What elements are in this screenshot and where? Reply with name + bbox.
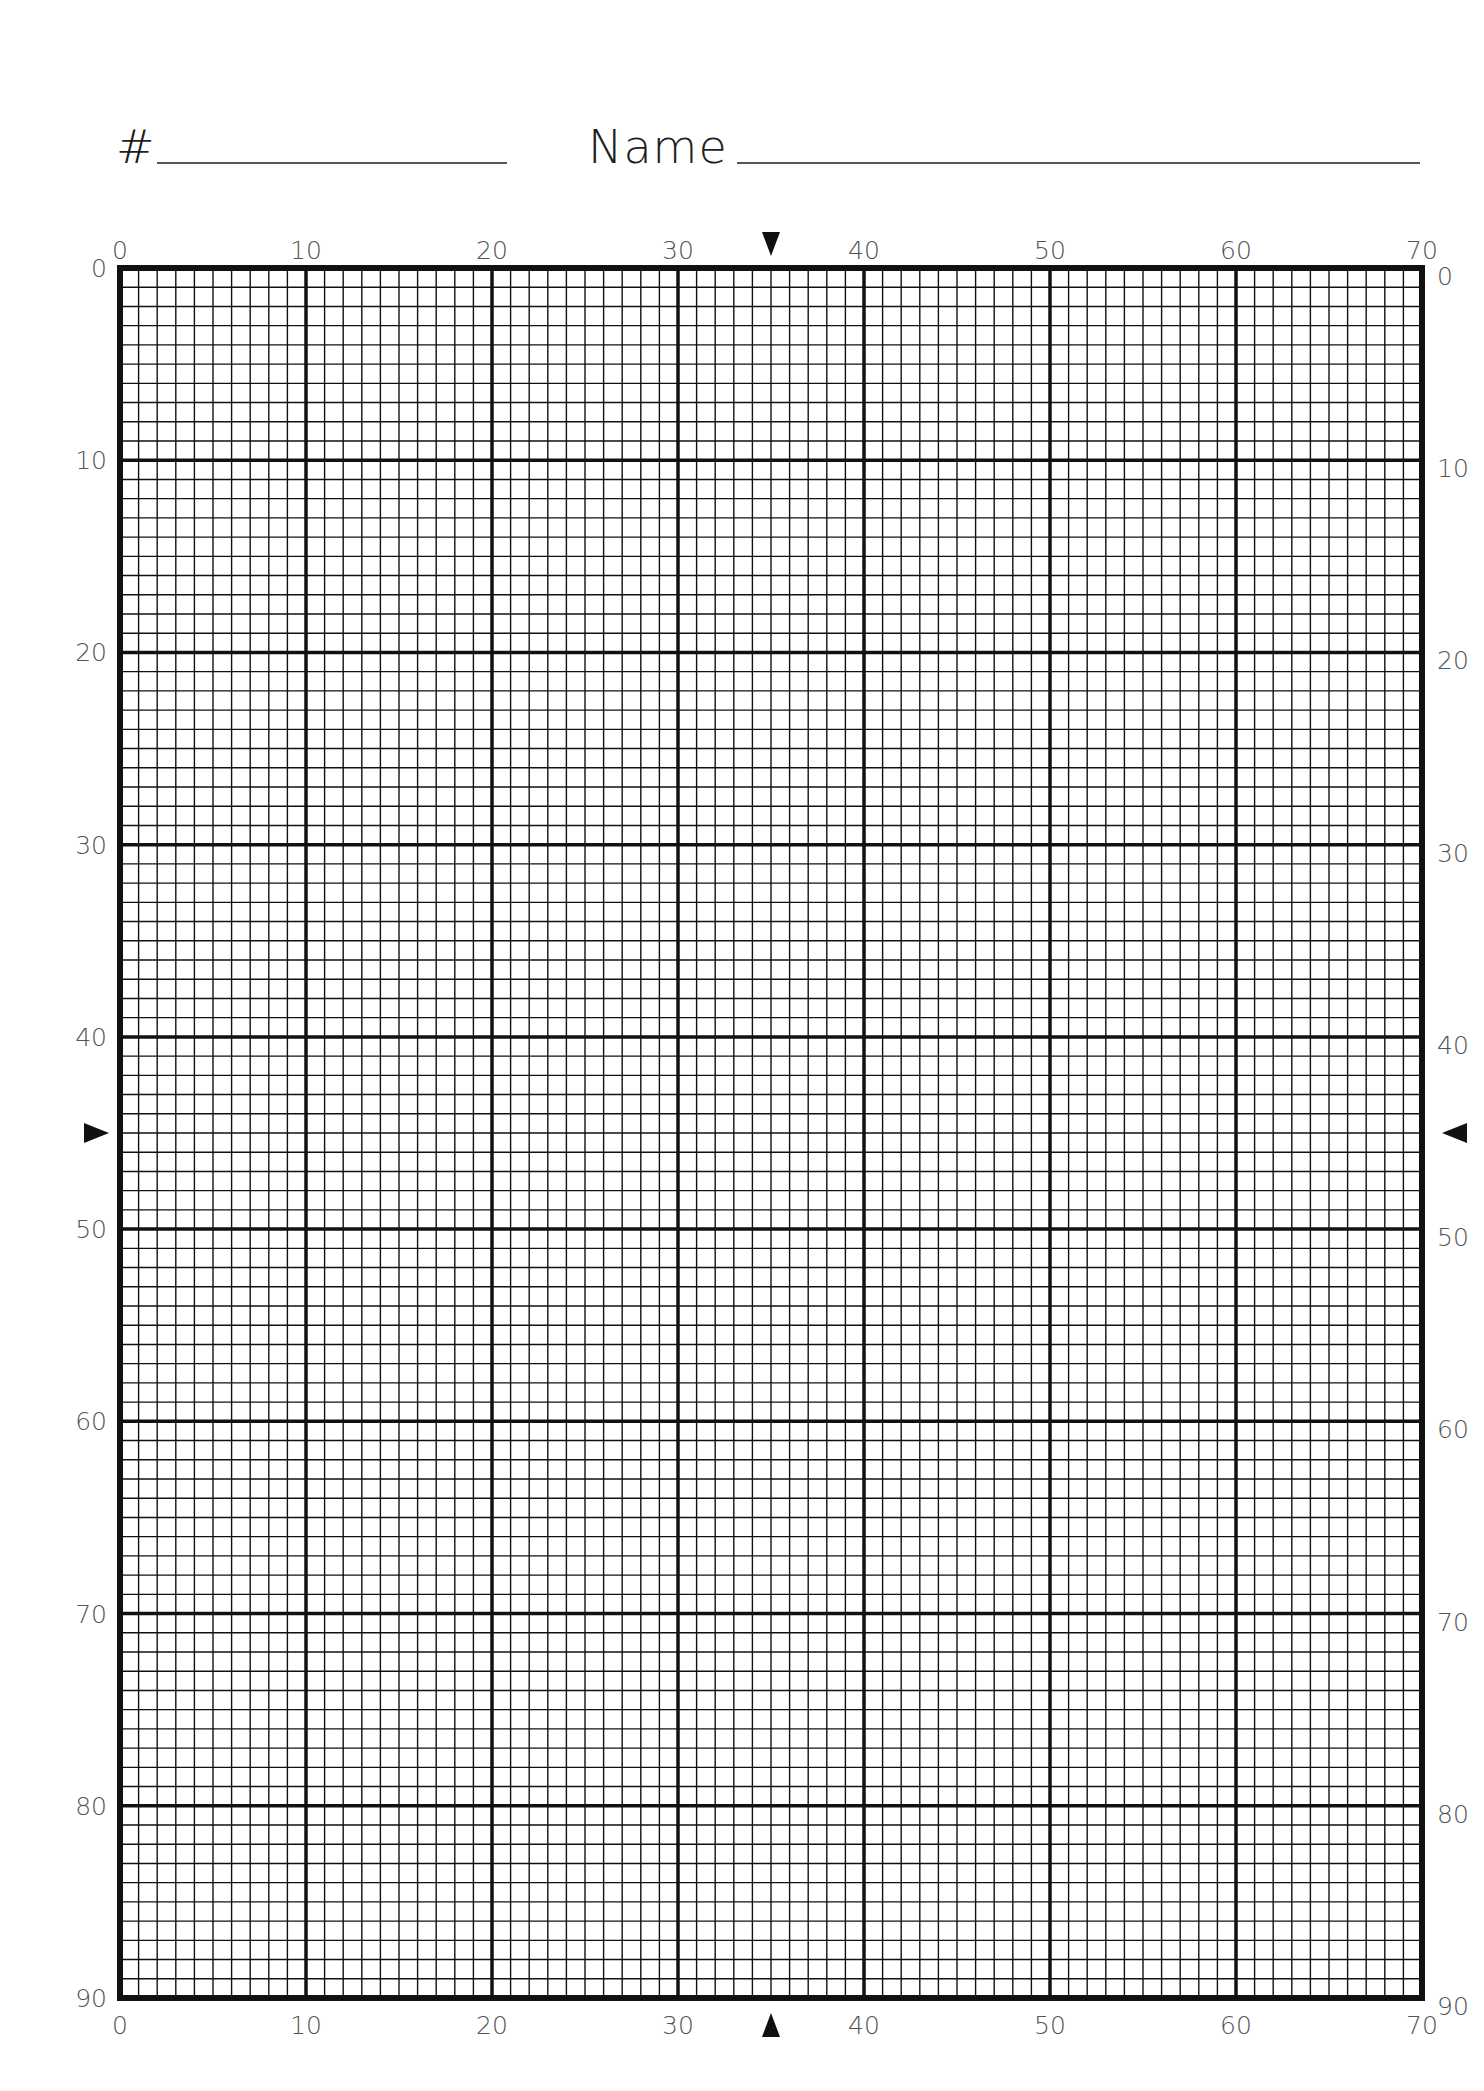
left-axis-label: 20	[75, 640, 107, 665]
bottom-axis-label: 60	[1220, 2013, 1252, 2038]
left-axis-label: 60	[75, 1409, 107, 1434]
left-axis-label: 50	[75, 1217, 107, 1242]
triangle-right-icon	[84, 1123, 109, 1143]
right-axis-label: 50	[1437, 1225, 1469, 1250]
left-axis-label: 40	[75, 1024, 107, 1049]
top-axis-label: 40	[848, 238, 880, 263]
right-axis-label: 40	[1437, 1032, 1469, 1057]
triangle-down-icon	[762, 232, 780, 256]
top-axis-label: 10	[290, 238, 322, 263]
triangle-left-icon	[1442, 1123, 1467, 1143]
right-axis-label: 90	[1437, 1994, 1469, 2019]
left-axis-label: 70	[75, 1601, 107, 1626]
bottom-axis-label: 10	[290, 2013, 322, 2038]
left-axis-label: 30	[75, 832, 107, 857]
right-axis-label: 80	[1437, 1801, 1469, 1826]
bottom-axis-label: 30	[662, 2013, 694, 2038]
right-axis-label: 30	[1437, 840, 1469, 865]
right-axis-label: 60	[1437, 1417, 1469, 1442]
left-axis-label: 0	[91, 256, 107, 281]
triangle-up-icon	[762, 2013, 780, 2037]
right-axis-label: 70	[1437, 1609, 1469, 1634]
left-axis-label: 80	[75, 1793, 107, 1818]
top-axis-label: 70	[1406, 238, 1438, 263]
right-axis-label: 0	[1437, 264, 1453, 289]
right-axis-label: 10	[1437, 456, 1469, 481]
top-axis-label: 0	[112, 238, 128, 263]
right-axis-label: 20	[1437, 648, 1469, 673]
bottom-axis-label: 50	[1034, 2013, 1066, 2038]
graph-paper-grid	[0, 0, 1484, 2091]
bottom-axis-label: 20	[476, 2013, 508, 2038]
top-axis-label: 60	[1220, 238, 1252, 263]
left-axis-label: 90	[75, 1986, 107, 2011]
left-axis-label: 10	[75, 448, 107, 473]
bottom-axis-label: 0	[112, 2013, 128, 2038]
bottom-axis-label: 40	[848, 2013, 880, 2038]
top-axis-label: 50	[1034, 238, 1066, 263]
bottom-axis-label: 70	[1406, 2013, 1438, 2038]
top-axis-label: 30	[662, 238, 694, 263]
top-axis-label: 20	[476, 238, 508, 263]
